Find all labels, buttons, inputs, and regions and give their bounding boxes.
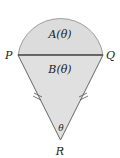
region-b-label: B(θ) — [47, 63, 71, 76]
diagram-canvas: A(θ) B(θ) P Q R θ — [0, 0, 120, 158]
region-a-label: A(θ) — [47, 28, 71, 41]
point-q-label: Q — [106, 49, 115, 62]
point-p-label: P — [4, 49, 13, 62]
point-r-label: R — [55, 145, 64, 158]
angle-theta-label: θ — [58, 123, 64, 133]
